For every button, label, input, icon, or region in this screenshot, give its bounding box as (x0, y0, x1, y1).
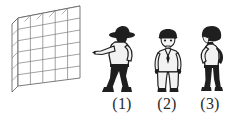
boot-left (102, 87, 114, 92)
illustration-canvas: (1) (2) (3) (0, 0, 233, 124)
legs-trousers (106, 67, 129, 89)
leg-front (204, 68, 212, 88)
label-figure-2: (2) (150, 95, 184, 113)
eye-left (164, 39, 166, 41)
trouser-right (169, 72, 179, 89)
hat-crown (115, 26, 130, 34)
belt (110, 64, 129, 67)
label-figure-3: (3) (193, 95, 227, 113)
shoe-front (201, 87, 212, 91)
pointing-hand (92, 51, 95, 54)
shoe-left (158, 88, 167, 92)
belt (204, 65, 219, 68)
perspective-grid-wall (8, 4, 88, 96)
leg-rear (213, 68, 221, 88)
trouser-left (158, 72, 168, 89)
shoe-rear (215, 87, 224, 91)
label-figure-1: (1) (105, 95, 139, 113)
wall-front-face (18, 6, 80, 86)
shoe-right (170, 88, 179, 92)
figure-2-standing-person (148, 28, 188, 94)
figure-3-hands-on-hips-person (190, 25, 232, 95)
boot-right (121, 87, 132, 92)
eye-right (170, 39, 172, 41)
figure-1-pointing-person (92, 24, 140, 96)
